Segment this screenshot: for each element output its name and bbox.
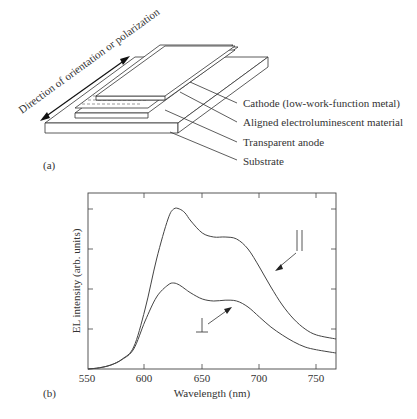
panel-b-label: (b) (43, 387, 56, 400)
plot-frame (88, 193, 336, 369)
arrowhead-icon (224, 307, 232, 314)
layer-label-anode: Transparent anode (243, 136, 324, 148)
x-tick-label: 600 (136, 372, 153, 384)
x-ticks (144, 193, 316, 369)
x-tick-label: 650 (194, 372, 211, 384)
x-tick-label: 550 (79, 372, 96, 384)
arrowhead-icon (40, 112, 50, 121)
x-tick-label: 700 (251, 372, 268, 384)
parallel-annotation (275, 230, 302, 271)
x-axis-title: Wavelength (nm) (174, 387, 251, 400)
y-ticks (88, 209, 336, 329)
y-axis-title: EL intensity (arb. units) (70, 228, 83, 333)
panel-a-label: (a) (43, 159, 56, 172)
layer-label-cathode: Cathode (low-work-function metal) (243, 97, 400, 110)
perpendicular-annotation (196, 307, 232, 332)
x-tick-labels: 550 600 650 700 750 (79, 372, 325, 384)
x-tick-label: 750 (308, 372, 325, 384)
figure-canvas: Direction of orientation or polarization… (0, 0, 417, 419)
layer-label-substrate: Substrate (243, 155, 284, 167)
perpendicular-curve (88, 283, 336, 369)
substrate-front (45, 123, 178, 133)
layer-label-emitter: Aligned electroluminescent material (243, 116, 403, 128)
